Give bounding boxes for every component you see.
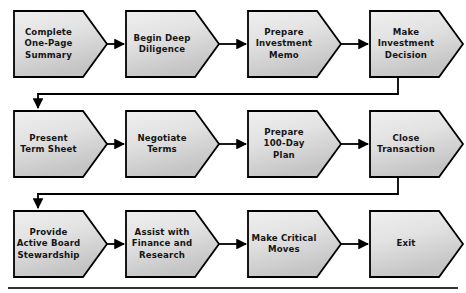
flowchart-canvas: Complete One-Page Summary Begin Deep Dil… (0, 0, 466, 293)
chevron-shape-n2[interactable] (126, 11, 219, 77)
flowchart-graphics (0, 0, 466, 293)
connector-wrap-c4 (38, 78, 398, 108)
chevron-shape-n8[interactable] (370, 111, 463, 177)
chevron-shape-n5[interactable] (14, 111, 107, 177)
connector-wrap-c8 (38, 178, 398, 208)
chevron-shape-n7[interactable] (248, 111, 341, 177)
chevron-shape-n1[interactable] (14, 11, 107, 77)
chevron-shape-n10[interactable] (126, 211, 219, 277)
chevron-shape-n4[interactable] (370, 11, 463, 77)
chevron-shape-n9[interactable] (14, 211, 107, 277)
chevron-shape-n11[interactable] (248, 211, 341, 277)
chevron-shape-n3[interactable] (248, 11, 341, 77)
chevron-shape-n12[interactable] (370, 211, 463, 277)
chevron-shape-n6[interactable] (126, 111, 219, 177)
